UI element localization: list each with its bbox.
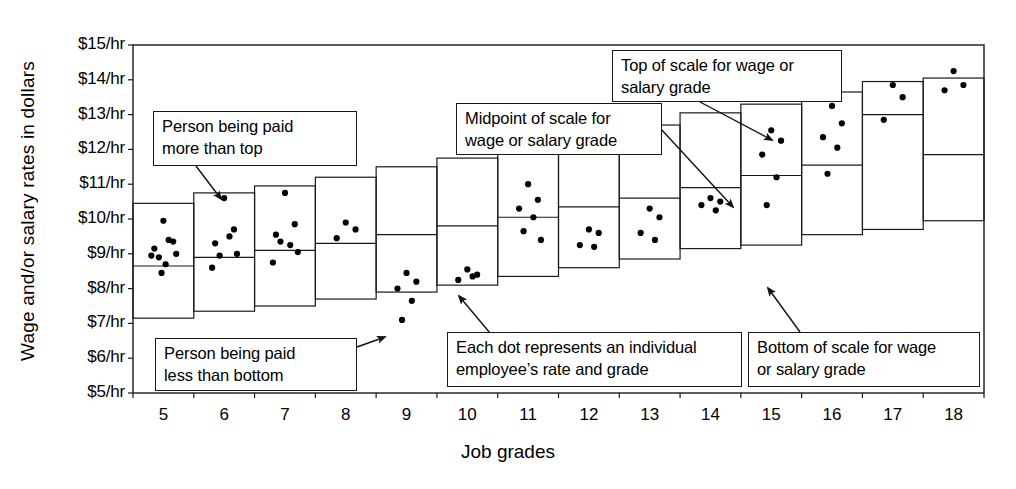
callout-person-paid-less: Person being paid less than bottom [155,338,357,391]
callout-line-2: wage or salary grade [465,130,654,152]
callout-line-2: or salary grade [757,359,972,381]
callout-midpoint-of-scale: Midpoint of scale for wage or salary gra… [456,103,662,155]
callout-line-1: Each dot represents an individual [456,337,734,359]
callout-line-1: Person being paid [162,116,349,138]
callout-person-paid-more: Person being paid more than top [153,111,357,166]
callout-line-1: Bottom of scale for wage [757,337,972,359]
callout-each-dot: Each dot represents an individual employ… [447,332,742,387]
plot-graphics [0,0,1016,489]
callout-line-2: salary grade [621,77,834,99]
callout-line-1: Midpoint of scale for [465,108,654,130]
callout-top-of-scale: Top of scale for wage or salary grade [612,50,842,102]
callout-line-2: more than top [162,138,349,160]
callout-line-2: employee’s rate and grade [456,359,734,381]
callout-line-1: Person being paid [164,343,349,365]
callout-bottom-of-scale: Bottom of scale for wage or salary grade [748,332,980,387]
callout-line-2: less than bottom [164,365,349,387]
chart-canvas: Wage and/or salary rates in dollars Job … [0,0,1016,489]
callout-line-1: Top of scale for wage or [621,55,834,77]
